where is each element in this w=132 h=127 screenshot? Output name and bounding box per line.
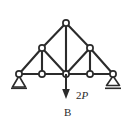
applied-load-arrow <box>62 74 70 99</box>
load-label-2p: 2P <box>76 90 88 101</box>
member-right-diagonal <box>66 48 90 74</box>
truss-diagram-figure: 2P B <box>0 0 132 127</box>
member-top-chord-left-lower <box>19 48 42 74</box>
member-top-chord-right-upper <box>66 23 90 48</box>
upper-right-joint <box>87 45 93 51</box>
load-arrow-head <box>62 89 70 99</box>
member-top-chord-left-upper <box>42 23 66 48</box>
apex-joint <box>63 20 69 26</box>
member-left-diagonal <box>42 48 66 74</box>
right-support-joint <box>110 71 116 77</box>
left-support-joint <box>16 71 22 77</box>
upper-left-joint <box>39 45 45 51</box>
point-label-b: B <box>64 107 71 118</box>
truss-members <box>19 23 113 74</box>
load-symbol: P <box>82 89 89 101</box>
bottom-left-joint <box>39 71 45 77</box>
bottom-right-joint <box>87 71 93 77</box>
member-top-chord-right-lower <box>90 48 113 74</box>
